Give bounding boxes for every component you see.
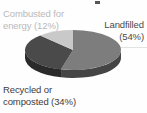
- slice-label-recycled: Recycled or composted (34%): [3, 84, 76, 107]
- slice-label-landfilled-line2: (54%): [104, 31, 144, 43]
- slice-label-landfilled: Landfilled (54%): [104, 19, 144, 42]
- slice-label-recycled-line1: Recycled or: [3, 84, 76, 96]
- slice-label-combusted: Combusted for energy (12%): [3, 8, 64, 31]
- slice-label-recycled-line2: composted (34%): [3, 96, 76, 108]
- slice-label-combusted-line1: Combusted for: [3, 8, 64, 20]
- pie-chart-figure: Combusted for energy (12%) Landfilled (5…: [0, 0, 147, 113]
- slice-label-landfilled-line1: Landfilled: [104, 19, 144, 31]
- slice-label-combusted-line2: energy (12%): [3, 20, 64, 32]
